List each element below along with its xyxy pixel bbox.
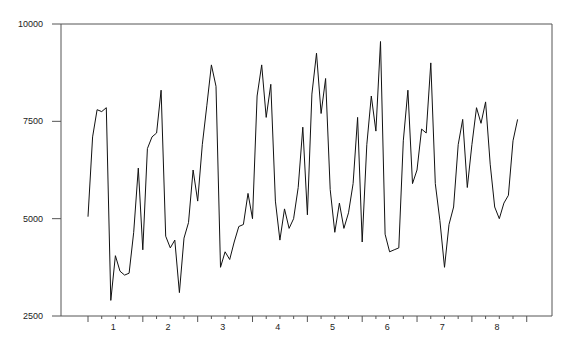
x-tick-label: 8 xyxy=(495,322,500,332)
x-tick-label: 1 xyxy=(111,322,116,332)
y-tick-label: 7500 xyxy=(23,116,43,126)
x-tick-label: 6 xyxy=(385,322,390,332)
y-tick-label: 2500 xyxy=(23,311,43,321)
line-chart: 25005000750010000 12345678 xyxy=(0,0,576,344)
x-tick-label: 7 xyxy=(440,322,445,332)
x-tick-label: 4 xyxy=(275,322,280,332)
y-axis-ticks: 25005000750010000 xyxy=(18,19,61,321)
x-tick-label: 5 xyxy=(330,322,335,332)
y-tick-label: 5000 xyxy=(23,214,43,224)
y-tick-label: 10000 xyxy=(18,19,43,29)
x-axis-ticks: 12345678 xyxy=(88,316,527,332)
data-line xyxy=(88,42,518,301)
x-tick-label: 2 xyxy=(165,322,170,332)
plot-frame xyxy=(61,24,552,316)
x-tick-label: 3 xyxy=(220,322,225,332)
